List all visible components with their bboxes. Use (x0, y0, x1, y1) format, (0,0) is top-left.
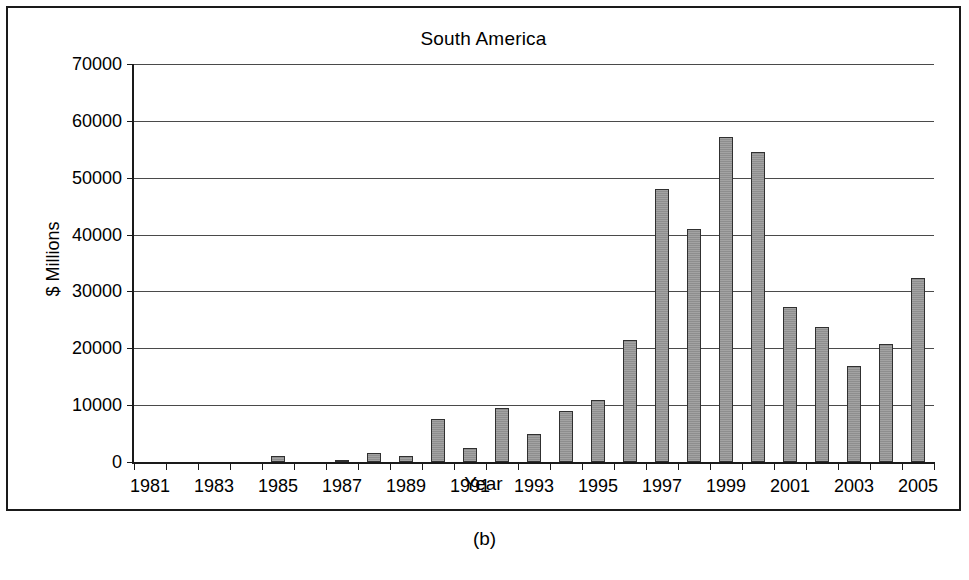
bar-1996 (623, 340, 637, 462)
bar-1998 (687, 229, 701, 462)
bar-1994 (559, 411, 573, 462)
y-axis-title: $ Millions (43, 221, 64, 296)
x-tick-mark (454, 462, 455, 470)
bar-2004 (879, 344, 893, 462)
gridline (134, 291, 934, 292)
bar-1985 (271, 456, 285, 462)
x-tick-mark (614, 462, 615, 470)
bar-1991 (463, 448, 477, 462)
bar-1990 (431, 419, 445, 462)
gridline (134, 121, 934, 122)
x-tick-mark (390, 462, 391, 470)
x-tick-mark (902, 462, 903, 470)
y-tick-label: 30000 (72, 281, 122, 302)
y-tick-mark (127, 291, 134, 292)
gridline (134, 64, 934, 65)
bar-2000 (751, 152, 765, 462)
x-tick-mark (358, 462, 359, 470)
chart-title: South America (8, 28, 959, 50)
y-tick-mark (127, 348, 134, 349)
bar-2001 (783, 307, 797, 462)
y-tick-label: 10000 (72, 395, 122, 416)
x-tick-mark (230, 462, 231, 470)
bar-1997 (655, 189, 669, 462)
y-tick-mark (127, 235, 134, 236)
bar-1987 (335, 460, 349, 462)
bar-1992 (495, 408, 509, 462)
y-tick-label: 50000 (72, 167, 122, 188)
x-tick-mark (486, 462, 487, 470)
figure-frame: South America $ Millions 010000200003000… (6, 6, 961, 511)
x-tick-mark (134, 462, 135, 470)
x-tick-mark (166, 462, 167, 470)
bar-2005 (911, 278, 925, 462)
x-tick-mark (198, 462, 199, 470)
x-tick-mark (838, 462, 839, 470)
gridline (134, 178, 934, 179)
x-tick-mark (422, 462, 423, 470)
x-tick-mark (294, 462, 295, 470)
bar-1993 (527, 434, 541, 462)
gridline (134, 235, 934, 236)
x-tick-mark (262, 462, 263, 470)
y-tick-mark (127, 462, 134, 463)
x-tick-mark (806, 462, 807, 470)
y-tick-mark (127, 405, 134, 406)
y-tick-mark (127, 64, 134, 65)
plot-area: 010000200003000040000500006000070000 198… (132, 64, 934, 464)
x-tick-mark (774, 462, 775, 470)
x-tick-mark (678, 462, 679, 470)
bar-1995 (591, 400, 605, 462)
y-tick-label: 60000 (72, 110, 122, 131)
y-tick-label: 40000 (72, 224, 122, 245)
bar-2003 (847, 366, 861, 462)
x-tick-mark (646, 462, 647, 470)
x-tick-mark (870, 462, 871, 470)
x-tick-mark (550, 462, 551, 470)
x-tick-mark (518, 462, 519, 470)
x-tick-mark (326, 462, 327, 470)
y-tick-label: 20000 (72, 338, 122, 359)
x-tick-mark (742, 462, 743, 470)
y-tick-mark (127, 178, 134, 179)
bar-1989 (399, 456, 413, 462)
bar-1988 (367, 453, 381, 462)
bar-2002 (815, 327, 829, 462)
y-tick-label: 70000 (72, 54, 122, 75)
bar-1999 (719, 137, 733, 462)
x-axis-title: Year (8, 473, 959, 495)
x-tick-mark (710, 462, 711, 470)
gridline (134, 405, 934, 406)
figure-caption: (b) (0, 528, 969, 550)
y-tick-label: 0 (112, 452, 122, 473)
y-tick-mark (127, 121, 134, 122)
gridline (134, 348, 934, 349)
x-tick-mark (934, 462, 935, 470)
x-tick-mark (582, 462, 583, 470)
